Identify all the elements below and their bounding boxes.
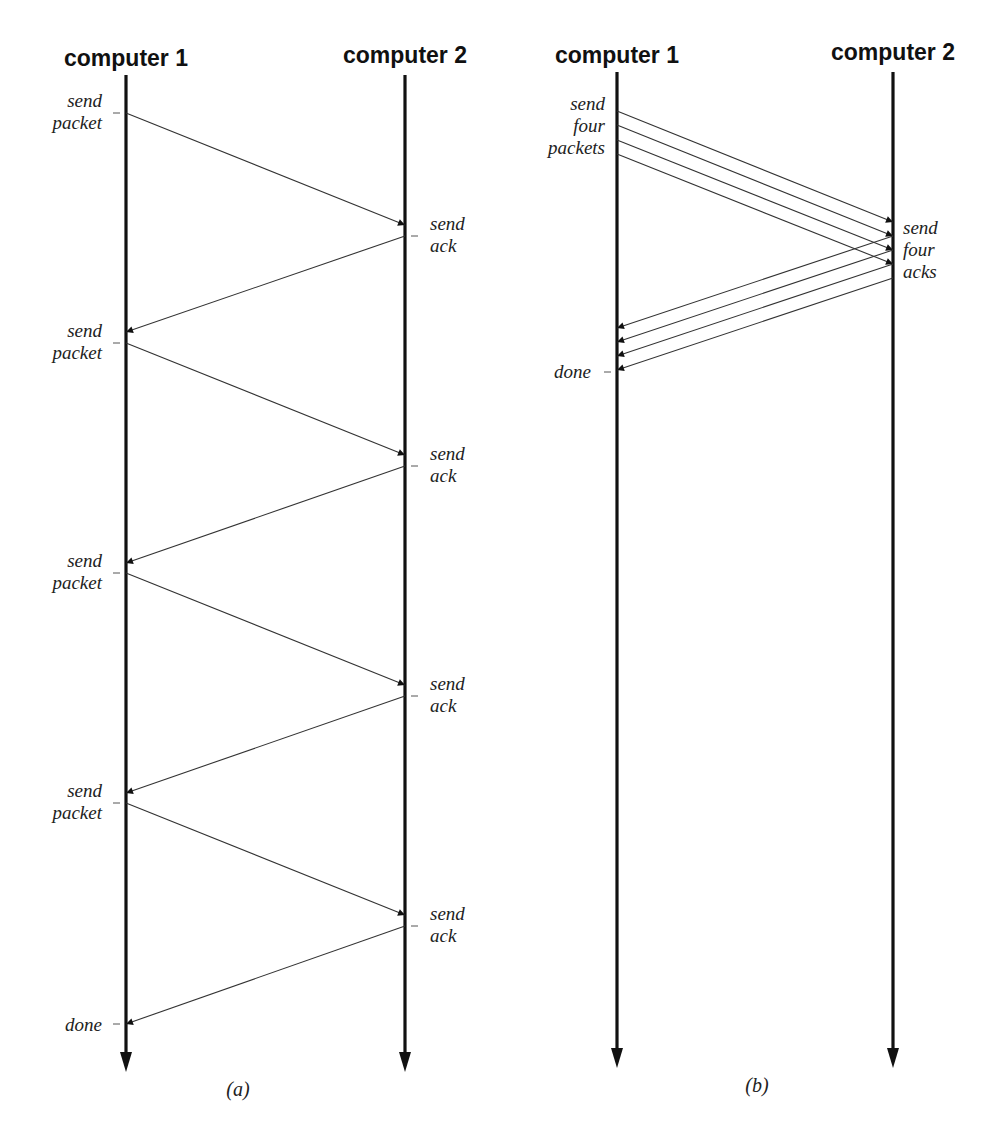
diagram-b-lane-title-computer-1: computer 1 [555, 42, 679, 68]
event-label-send-ack: sendack [430, 673, 465, 716]
ack-message-arrow [617, 278, 893, 370]
ack-message-arrow [126, 466, 405, 563]
packet-message-arrow [617, 111, 893, 222]
packet-message-arrow [126, 573, 405, 685]
ack-message-arrow [126, 696, 405, 793]
diagram-graphics: sendpacketsendacksendpacketsendacksendpa… [50, 72, 938, 1072]
event-label-send-four-acks: sendfouracks [903, 217, 938, 282]
event-label-send-packet: sendpacket [50, 90, 102, 133]
packet-message-arrow [617, 125, 893, 236]
diagram-a-lane-title-computer-1: computer 1 [64, 45, 188, 71]
event-label-done: done [65, 1014, 102, 1035]
ack-message-arrow [617, 236, 893, 328]
packet-timing-figure: computer 1 computer 2 computer 1 compute… [0, 0, 986, 1132]
diagram-b-caption: (b) [745, 1074, 769, 1097]
event-label-done: done [554, 361, 591, 382]
event-label-send-packet: sendpacket [50, 320, 102, 363]
ack-message-arrow [126, 926, 405, 1024]
diagram-a-caption: (a) [226, 1078, 250, 1101]
packet-message-arrow [617, 140, 893, 250]
packet-message-arrow [126, 113, 405, 225]
ack-message-arrow [617, 250, 893, 342]
time-arrow-icon [399, 1052, 411, 1072]
time-arrow-icon [887, 1048, 899, 1068]
event-label-send-ack: sendack [430, 903, 465, 946]
event-label-send-packet: sendpacket [50, 780, 102, 823]
packet-message-arrow [126, 343, 405, 455]
time-arrow-icon [120, 1052, 132, 1072]
ack-message-arrow [617, 264, 893, 356]
diagram-b: sendfourpacketssendfouracksdone [546, 72, 938, 1068]
event-label-send-ack: sendack [430, 213, 465, 256]
diagram-b-lane-title-computer-2: computer 2 [831, 39, 955, 65]
event-label-send-packet: sendpacket [50, 550, 102, 593]
event-label-send-four-packets: sendfourpackets [546, 93, 606, 158]
packet-message-arrow [126, 803, 405, 915]
packet-message-arrow [617, 154, 893, 264]
diagram-canvas: computer 1 computer 2 computer 1 compute… [0, 0, 986, 1132]
event-label-send-ack: sendack [430, 443, 465, 486]
diagram-a-lane-title-computer-2: computer 2 [343, 42, 467, 68]
time-arrow-icon [611, 1048, 623, 1068]
diagram-a: sendpacketsendacksendpacketsendacksendpa… [50, 75, 465, 1072]
ack-message-arrow [126, 236, 405, 332]
